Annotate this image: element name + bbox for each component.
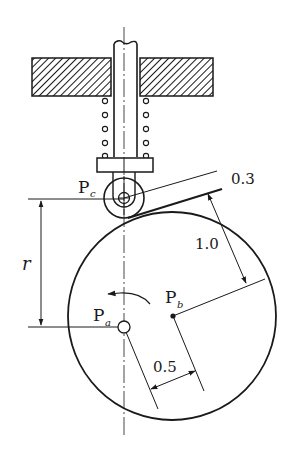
guide-right-block [140,58,213,96]
follower-flange [97,158,153,172]
compression-spring [102,98,148,158]
pa-pivot [118,321,130,333]
label-eccentric-0-5: 0.5 [153,358,177,376]
cam-mechanism-diagram: P c P a P b r 0.3 1.0 0.5 [0,0,303,460]
label-radius: r [22,253,32,274]
label-pa: P [93,305,104,325]
label-pc-subscript: c [90,188,96,199]
label-pc: P [78,177,89,197]
guide-left-block [32,58,111,96]
label-pb-subscript: b [177,299,183,310]
label-distance-1-0: 1.0 [195,235,219,253]
pb-extension-line [173,279,265,316]
pb-down-extension-line [173,316,204,391]
label-pa-subscript: a [105,317,111,328]
tangent-line [128,189,222,218]
fixed-guide [32,58,213,96]
label-offset-0-3: 0.3 [231,170,255,188]
follower-rod [114,41,137,157]
label-pb: P [165,287,176,307]
rotation-arrow [108,293,150,304]
rod-break-end [114,41,137,44]
roller [104,172,144,218]
